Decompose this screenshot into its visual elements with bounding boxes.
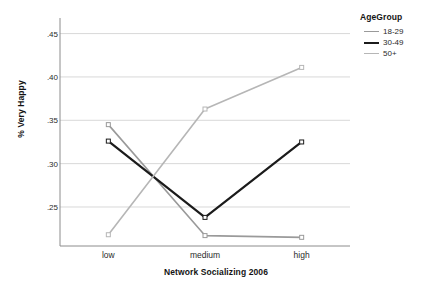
series-line-30-49: [108, 141, 301, 217]
line-chart: % Very Happy .25.30.35.40.45 lowmediumhi…: [0, 0, 432, 298]
data-point: [106, 233, 110, 237]
data-point: [300, 65, 304, 69]
x-axis-tick-label: high: [294, 250, 310, 260]
legend-swatch: [364, 31, 379, 32]
x-axis-tick-label: medium: [190, 250, 220, 260]
legend-title: AgeGroup: [360, 12, 432, 22]
data-point: [203, 107, 207, 111]
legend-item-18-29[interactable]: 18-29: [364, 26, 432, 37]
data-point: [203, 215, 207, 219]
legend-item-label: 50+: [383, 49, 397, 58]
data-point: [300, 235, 304, 239]
data-point: [300, 140, 304, 144]
data-point: [106, 123, 110, 127]
x-axis-tick-label: low: [102, 250, 115, 260]
legend-item-50+[interactable]: 50+: [364, 48, 432, 59]
series-line-18-29: [108, 125, 301, 238]
data-point: [106, 139, 110, 143]
data-point: [203, 234, 207, 238]
legend-item-30-49[interactable]: 30-49: [364, 37, 432, 48]
legend-item-label: 30-49: [383, 38, 403, 47]
series-line-50+: [108, 67, 301, 234]
legend-swatch: [364, 53, 379, 54]
legend: AgeGroup 18-2930-4950+: [360, 12, 432, 59]
legend-swatch: [364, 42, 379, 44]
x-axis-title: Network Socializing 2006: [0, 267, 432, 277]
legend-item-label: 18-29: [383, 27, 403, 36]
